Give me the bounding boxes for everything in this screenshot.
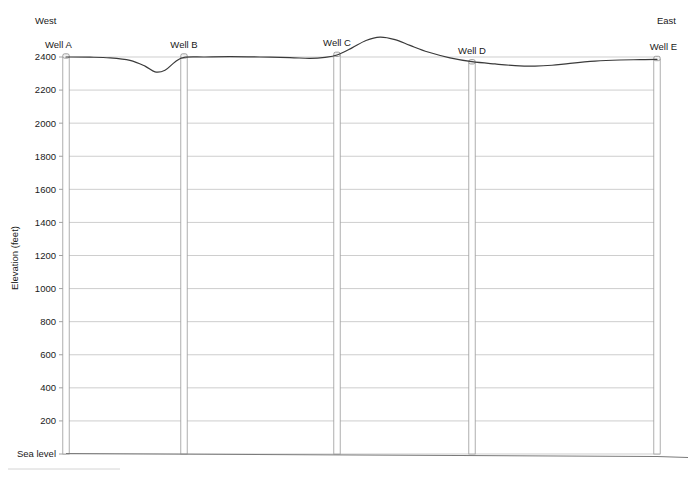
well-label-well-e: Well E (650, 41, 677, 52)
well-label-group: Well AWell BWell CWell DWell E (45, 37, 677, 55)
y-axis-title: Elevation (feet) (9, 226, 20, 290)
well-borehole[interactable] (469, 63, 475, 454)
well-group (63, 52, 660, 454)
y-axis-tick-label: 2200 (35, 84, 56, 95)
well-borehole[interactable] (334, 55, 340, 454)
y-axis-tick-label: 1600 (35, 184, 56, 195)
y-axis-tick-label: 600 (40, 349, 56, 360)
y-axis-tick-label: 400 (40, 382, 56, 393)
well-label-well-a: Well A (45, 39, 72, 50)
y-axis-tick-labels: 2400220020001800160014001200100080060040… (17, 51, 56, 459)
y-axis-tick-label: 1000 (35, 283, 56, 294)
compass-west-label: West (35, 15, 57, 26)
gridline-group (66, 57, 660, 454)
cross-section-svg: 2400220020001800160014001200100080060040… (0, 0, 694, 478)
compass-east-label: East (657, 15, 676, 26)
y-axis-tick-label: 2000 (35, 118, 56, 129)
cross-section-figure: 2400220020001800160014001200100080060040… (0, 0, 694, 478)
y-axis-tick-label: 1800 (35, 151, 56, 162)
well-label-well-d: Well D (458, 45, 486, 56)
y-axis-tick-label: 1400 (35, 217, 56, 228)
well-borehole[interactable] (654, 59, 660, 454)
land-surface-profile (66, 37, 657, 72)
well-collar-icon (654, 56, 660, 60)
y-axis-tick-label: Sea level (17, 448, 56, 459)
y-axis-tick-label: 200 (40, 415, 56, 426)
y-axis-tick-label: 1200 (35, 250, 56, 261)
well-borehole[interactable] (63, 57, 69, 454)
well-borehole[interactable] (181, 57, 187, 454)
well-label-well-c: Well C (323, 37, 351, 48)
y-axis-tick-label: 2400 (35, 51, 56, 62)
y-axis-tick-label: 800 (40, 316, 56, 327)
well-label-well-b: Well B (170, 39, 197, 50)
